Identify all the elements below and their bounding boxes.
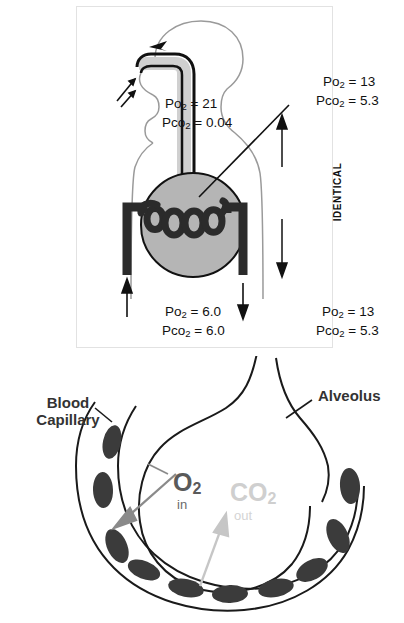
label-co2-direction: out — [234, 508, 252, 523]
label-blood-capillary: Blood Capillary — [22, 394, 114, 428]
label-venous-po2: Po2 = 6.0 — [165, 304, 221, 319]
o2-leader-line — [148, 464, 168, 474]
top-panel-illustration — [77, 7, 332, 347]
top-panel-gas-exchange: Po2 = 21 Pco2 = 0.04 Po2 = 13 Pco2 = 5.3… — [76, 6, 333, 348]
label-o2-direction: in — [177, 497, 187, 512]
label-co2: CO2 — [230, 478, 276, 507]
label-arterial-po2: Po2 = 13 — [322, 304, 374, 319]
identical-arrow-icon — [277, 115, 287, 277]
label-inspired-po2: Po2 = 21 — [165, 96, 217, 111]
label-alveolus: Alveolus — [318, 387, 381, 404]
figure-root: Po2 = 21 Pco2 = 0.04 Po2 = 13 Pco2 = 5.3… — [0, 0, 404, 623]
label-alveolar-po2: Po2 = 13 — [323, 74, 375, 89]
label-alveolar-pco2: Pco2 = 5.3 — [316, 93, 379, 108]
label-blood-line1: Blood — [47, 394, 90, 411]
label-arterial-pco2: Pco2 = 5.3 — [316, 323, 379, 338]
co2-arrow-icon — [200, 514, 228, 586]
label-blood-line2: Capillary — [36, 411, 99, 428]
inspired-air-arrows-icon — [117, 79, 135, 107]
alveolus-circle — [141, 173, 245, 277]
label-inspired-pco2: Pco2 = 0.04 — [162, 115, 232, 130]
label-venous-pco2: Pco2 = 6.0 — [162, 323, 225, 338]
bottom-panel-diffusion: Blood Capillary Alveolus — [0, 356, 404, 623]
nasal-arrow-icon — [149, 41, 167, 51]
label-identical: IDENTICAL — [332, 163, 343, 222]
label-o2: O2 — [173, 468, 201, 497]
